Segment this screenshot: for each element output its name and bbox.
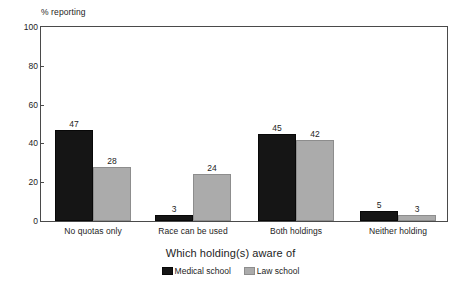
y-axis-tick-label: 100 [0,22,38,32]
legend-item-1: Law school [244,266,300,276]
y-axis-tick-label: 20 [0,177,38,187]
y-axis-tick-label: 0 [0,216,38,226]
y-axis-title: % reporting [41,7,86,17]
bar-value-label: 28 [107,156,116,166]
bar-1-2: 42 [296,140,334,221]
bar-value-label: 45 [272,123,281,133]
bar-value-label: 5 [377,200,382,210]
legend-label: Medical school [175,266,231,276]
bar-value-label: 24 [207,163,216,173]
legend-item-0: Medical school [162,266,231,276]
bar-value-label: 3 [172,204,177,214]
bar-1-3: 3 [398,215,436,221]
bars-container: 4728324454253 [41,27,447,221]
legend-swatch-icon [244,267,255,275]
chart-legend: Medical schoolLaw school [0,266,461,276]
y-axis-tick-label: 40 [0,138,38,148]
bar-value-label: 47 [69,119,78,129]
x-axis-title: Which holding(s) aware of [0,247,461,259]
x-axis-tick-label-0: No quotas only [64,226,121,236]
bar-0-2: 45 [258,134,296,221]
bar-value-label: 3 [415,204,420,214]
bar-1-1: 24 [193,174,231,221]
bar-1-0: 28 [93,167,131,221]
bar-0-1: 3 [155,215,193,221]
x-axis-tick-label-1: Race can be used [158,226,227,236]
legend-label: Law school [257,266,300,276]
y-axis-tick-label: 60 [0,100,38,110]
x-axis-tick-label-3: Neither holding [369,226,427,236]
x-axis-tick-label-2: Both holdings [270,226,322,236]
y-axis-tick-label: 80 [0,61,38,71]
bar-chart: % reporting 020406080100 4728324454253 N… [0,0,461,295]
legend-swatch-icon [162,267,173,275]
bar-0-0: 47 [55,130,93,221]
bar-0-3: 5 [360,211,398,221]
bar-value-label: 42 [310,129,319,139]
